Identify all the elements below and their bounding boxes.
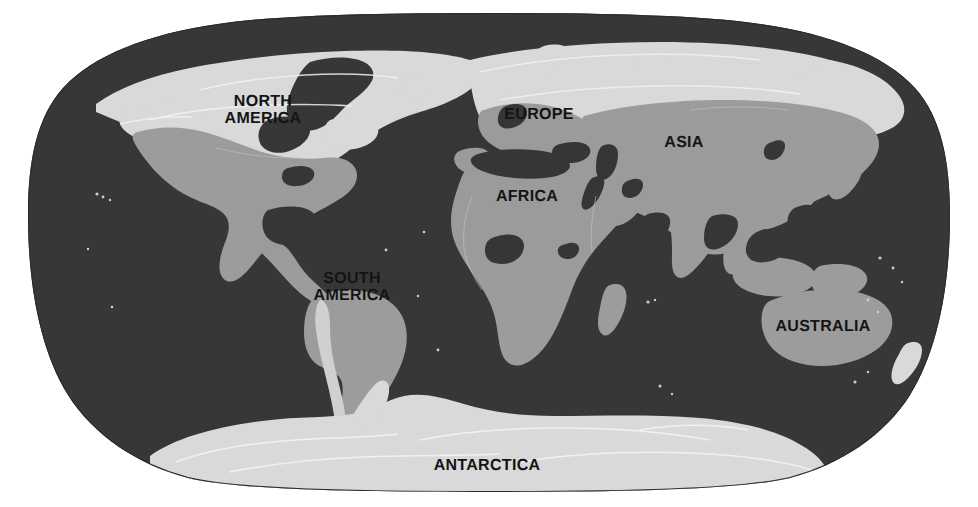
island-speck — [385, 249, 388, 252]
island-speck — [654, 299, 656, 301]
world-map-figure: NORTH AMERICA SOUTH AMERICA EUROPE AFRIC… — [0, 0, 978, 507]
world-map-graphic — [0, 0, 978, 507]
island-speck — [423, 231, 426, 234]
island-speck — [87, 248, 89, 250]
island-speck — [854, 381, 857, 384]
island-speck — [102, 196, 105, 199]
island-speck — [659, 385, 662, 388]
island-speck — [867, 299, 870, 302]
ocean-layer — [0, 0, 978, 507]
island-speck — [95, 192, 98, 195]
island-speck — [878, 256, 881, 259]
island-speck — [671, 393, 673, 395]
island-speck — [437, 349, 440, 352]
island-speck — [109, 199, 111, 201]
island-speck — [877, 311, 879, 313]
island-speck — [646, 300, 649, 303]
island-speck — [867, 371, 869, 373]
island-speck — [417, 295, 419, 297]
island-speck — [892, 267, 895, 270]
island-speck — [111, 306, 114, 309]
island-speck — [901, 281, 903, 283]
